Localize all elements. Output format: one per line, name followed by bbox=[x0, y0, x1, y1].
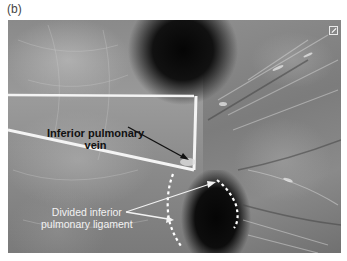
left-ligament-dotted-line bbox=[168, 174, 181, 246]
figure-panel-label: (b) bbox=[7, 2, 22, 16]
surgical-photo: Inferior pulmonary vein Divided inferior… bbox=[8, 20, 341, 253]
vein-label-line1: Inferior pulmonary bbox=[47, 127, 144, 139]
vertical-vessel-tape bbox=[194, 96, 196, 170]
ligament-label-line1: Divided inferior bbox=[41, 206, 133, 218]
upper-vessel-tape bbox=[8, 95, 194, 96]
vein-label-line2: vein bbox=[47, 139, 144, 151]
ligament-pointer-arrows bbox=[126, 181, 216, 223]
divided-ligament-label: Divided inferior pulmonary ligament bbox=[41, 206, 133, 230]
right-ligament-dotted-line bbox=[217, 180, 238, 228]
expand-icon[interactable] bbox=[329, 26, 338, 35]
ligament-label-line2: pulmonary ligament bbox=[41, 218, 133, 230]
inferior-pulmonary-vein-label: Inferior pulmonary vein bbox=[47, 127, 144, 151]
